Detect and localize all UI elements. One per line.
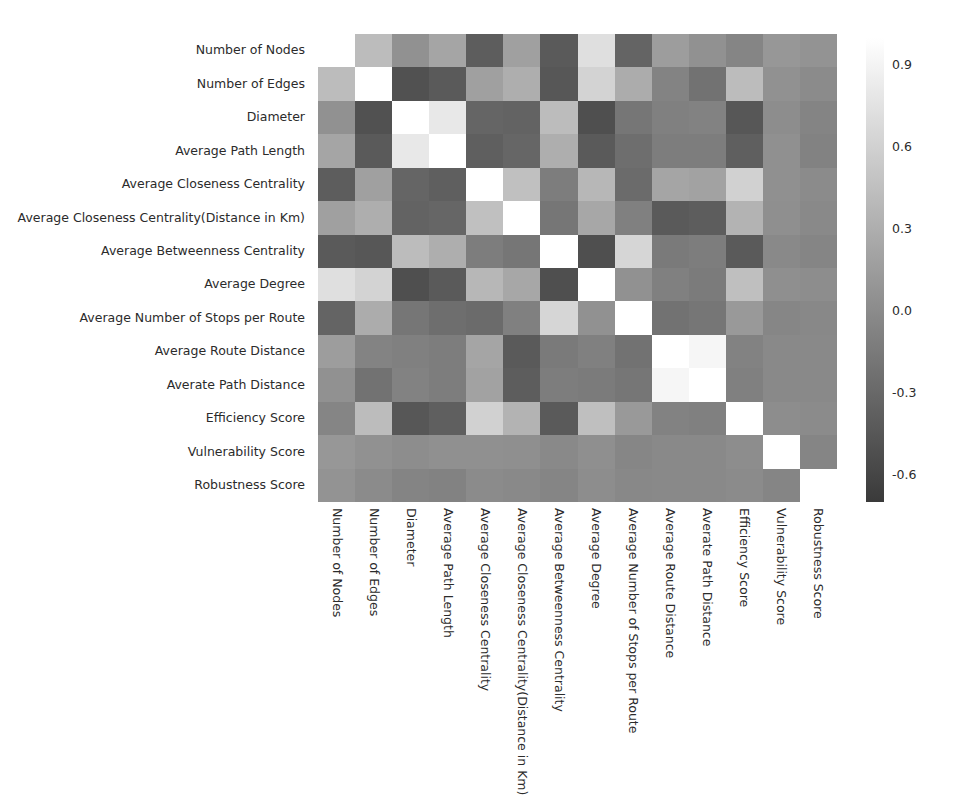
heatmap-cell (726, 469, 763, 502)
heatmap-cell (355, 335, 392, 368)
heatmap-cell (466, 435, 503, 468)
heatmap-cell (689, 335, 726, 368)
heatmap-cell (540, 34, 577, 67)
heatmap-cell (578, 469, 615, 502)
heatmap-cell (429, 34, 466, 67)
heatmap-cell (726, 134, 763, 167)
heatmap-cell (355, 435, 392, 468)
heatmap-cell (392, 101, 429, 134)
x-axis-label: Average Closeness Centrality(Distance in… (516, 508, 529, 795)
x-axis-label: Average Path Length (441, 508, 454, 638)
heatmap-cell (355, 101, 392, 134)
heatmap-cell (540, 201, 577, 234)
heatmap-cell (763, 201, 800, 234)
y-axis-label: Average Betweenness Centrality (20, 235, 312, 268)
heatmap-cell (540, 335, 577, 368)
heatmap-cell (578, 168, 615, 201)
heatmap-cell (503, 335, 540, 368)
heatmap-cell (429, 168, 466, 201)
heatmap-cell (392, 235, 429, 268)
heatmap-cell (429, 335, 466, 368)
heatmap-cell (800, 67, 837, 100)
heatmap-cell (429, 134, 466, 167)
heatmap-cell (318, 134, 355, 167)
heatmap-cell (578, 134, 615, 167)
heatmap-cell (355, 67, 392, 100)
colorbar-tick-label: -0.6 (892, 468, 916, 481)
heatmap-cell (355, 268, 392, 301)
heatmap-cell (429, 368, 466, 401)
heatmap-cell (578, 235, 615, 268)
x-axis-label: Average Closeness Centrality (479, 508, 492, 691)
heatmap-cell (540, 301, 577, 334)
heatmap-cell (318, 101, 355, 134)
colorbar-tick-label: 0.3 (892, 223, 912, 236)
heatmap-cell (615, 235, 652, 268)
heatmap-cell (689, 67, 726, 100)
heatmap-cell (763, 168, 800, 201)
heatmap-cell (318, 168, 355, 201)
heatmap-cell (466, 402, 503, 435)
heatmap-cell (503, 101, 540, 134)
heatmap-cell (652, 435, 689, 468)
x-axis-tick-labels: Number of NodesNumber of EdgesDiameterAv… (318, 502, 837, 802)
heatmap-cell (429, 469, 466, 502)
heatmap-cell (540, 469, 577, 502)
heatmap-cell (540, 402, 577, 435)
heatmap-cell (800, 168, 837, 201)
heatmap-cell (578, 268, 615, 301)
heatmap-cell (763, 402, 800, 435)
heatmap-cell (429, 435, 466, 468)
heatmap-cell (578, 101, 615, 134)
heatmap-cell (652, 268, 689, 301)
heatmap-cell (578, 335, 615, 368)
x-axis-label-slot: Number of Edges (355, 502, 392, 802)
heatmap-cell (615, 101, 652, 134)
heatmap-cell (763, 268, 800, 301)
x-axis-label: Vulnerability Score (775, 508, 788, 625)
heatmap-cell (466, 67, 503, 100)
heatmap-cell (800, 301, 837, 334)
y-axis-label: Average Degree (20, 268, 312, 301)
heatmap-cell (503, 469, 540, 502)
heatmap-cell (540, 368, 577, 401)
heatmap-cell (466, 101, 503, 134)
heatmap-cell (652, 469, 689, 502)
heatmap-cell (763, 235, 800, 268)
heatmap-cell (540, 134, 577, 167)
y-axis-label: Averate Path Distance (20, 368, 312, 401)
colorbar: 0.90.60.30.0-0.3-0.6 (866, 38, 956, 502)
heatmap-cell (540, 168, 577, 201)
heatmap-cell (652, 201, 689, 234)
heatmap-cell (392, 168, 429, 201)
heatmap-cell (578, 34, 615, 67)
heatmap-cell (318, 335, 355, 368)
heatmap-cell (503, 435, 540, 468)
heatmap-cell (763, 368, 800, 401)
x-axis-label-slot: Average Degree (578, 502, 615, 802)
heatmap-cell (763, 101, 800, 134)
heatmap-cell (540, 435, 577, 468)
heatmap-cell (578, 67, 615, 100)
heatmap-cell (503, 168, 540, 201)
heatmap-figure: Number of NodesNumber of EdgesDiameterAv… (0, 0, 963, 809)
x-axis-label: Efficiency Score (738, 508, 751, 607)
heatmap-cell (540, 101, 577, 134)
heatmap-cell (392, 402, 429, 435)
heatmap-grid (318, 34, 837, 502)
x-axis-label-slot: Average Betweenness Centrality (540, 502, 577, 802)
heatmap-cell (726, 168, 763, 201)
heatmap-cell (726, 435, 763, 468)
heatmap-cell (355, 201, 392, 234)
heatmap-cell (355, 469, 392, 502)
heatmap-cell (578, 201, 615, 234)
heatmap-cell (429, 67, 466, 100)
heatmap-cell (318, 34, 355, 67)
x-axis-label-slot: Average Closeness Centrality (466, 502, 503, 802)
heatmap-cell (466, 34, 503, 67)
heatmap-cell (689, 34, 726, 67)
colorbar-tick-label: 0.0 (892, 305, 912, 318)
heatmap-cell (318, 67, 355, 100)
heatmap-cell (615, 67, 652, 100)
heatmap-cell (689, 101, 726, 134)
